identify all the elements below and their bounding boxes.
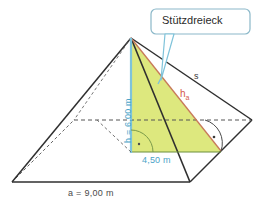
lateral-edge-left <box>12 38 131 182</box>
pyramid-figure: Stützdreieck s ha h = 6,00 m 4,50 m a = … <box>0 0 259 204</box>
base-edge-back-left <box>12 120 74 182</box>
lateral-edge-back-hidden <box>74 38 131 120</box>
callout-tail <box>161 34 174 80</box>
apothem-helper-dashed <box>97 120 131 152</box>
pyramid-diagram-svg <box>0 0 259 204</box>
callout-bubble <box>151 9 250 34</box>
right-angle-dot-center <box>138 143 140 145</box>
right-angle-dot-edge <box>213 136 216 139</box>
